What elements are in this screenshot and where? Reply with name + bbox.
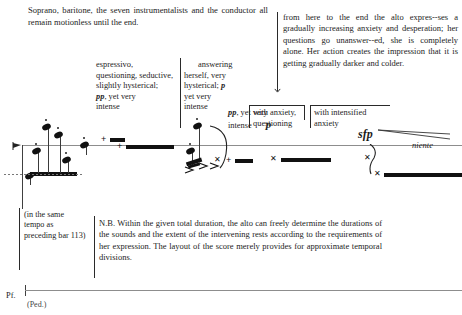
annotation-line: , yet very	[104, 92, 135, 101]
nb-note-divider	[94, 216, 95, 278]
annotation-espressivo: espressivo, questioning, seductive, slig…	[96, 60, 186, 113]
alto-note: from here to the end the alto expres--se…	[283, 12, 458, 69]
header-note: Soprano, baritone, the seven instrumenta…	[28, 5, 268, 28]
alto-note-divider	[277, 12, 278, 88]
plus-mark: +	[226, 156, 231, 165]
notehead	[53, 131, 64, 140]
note-stem	[48, 127, 49, 173]
instrument-label-pf: Pf.	[6, 291, 16, 300]
notehead	[185, 147, 196, 156]
accent-dot	[196, 118, 198, 120]
accent-dot	[35, 143, 37, 145]
annotation-4-rule-top	[310, 105, 390, 106]
x-notehead: ✕	[270, 155, 277, 163]
notehead	[192, 122, 203, 131]
accent-mark-icon	[184, 166, 196, 176]
note-stem	[199, 126, 200, 160]
annotation-line: espressivo,	[96, 60, 186, 71]
x-notehead: ✕	[364, 154, 371, 162]
pedal-marking: (Ped.)	[27, 300, 46, 309]
notehead	[31, 147, 42, 156]
accent-dot	[65, 152, 67, 154]
annotation-line: slightly hysterical;	[96, 81, 186, 92]
tempo-note-divider	[19, 208, 20, 270]
annotation-3-rule-top	[249, 105, 305, 106]
note-stem	[38, 151, 39, 173]
notehead	[24, 172, 35, 181]
score-page: Soprano, baritone, the seven instrumenta…	[0, 0, 462, 315]
annotation-line: intense	[96, 102, 186, 113]
tempo-note: (in the same tempo as preceding bar 113)	[24, 210, 86, 241]
barline	[22, 145, 23, 209]
pf-stave-line	[25, 290, 462, 291]
annotation-answering: answering herself, very hysterical; p ye…	[184, 60, 252, 113]
accent-dot	[83, 137, 85, 139]
dynamic-p: p	[221, 81, 225, 90]
accent-mark-icon	[209, 162, 221, 172]
annotation-line: questioning, seductive,	[96, 71, 186, 82]
nb-note: N.B. Within the given total duration, th…	[99, 218, 382, 264]
annotation-dynamic-line: hysterical; p	[184, 81, 252, 92]
notehead	[61, 156, 72, 165]
dotted-guide-line	[4, 174, 82, 175]
voice-marker-icon	[11, 140, 23, 152]
annotation-line: herself, very	[184, 71, 252, 82]
plus-mark: +	[101, 135, 106, 144]
accent-dot	[45, 119, 47, 121]
accent-dot	[189, 143, 191, 145]
sound-band	[126, 145, 174, 149]
annotation-dynamic-line: pp, yet very	[96, 92, 186, 103]
plus-mark: +	[117, 142, 122, 151]
sound-band	[384, 173, 462, 177]
x-notehead: ✕	[374, 170, 381, 178]
accent-dot	[57, 127, 59, 129]
notehead	[79, 141, 90, 150]
dynamic-niente: niente	[412, 140, 433, 150]
annotation-line: answering	[184, 60, 252, 71]
annotation-line: with anxiety,	[253, 108, 311, 119]
dynamic-sfp: sfp	[358, 127, 373, 142]
note-stem	[60, 135, 61, 173]
music-system: + + ✕ + ✕ sfp	[0, 118, 462, 200]
notehead	[41, 123, 52, 132]
annotation-line: yet very	[184, 92, 252, 103]
sound-band	[235, 159, 253, 163]
annotation-line: with intensified	[314, 108, 392, 119]
down-arrow-icon	[273, 84, 282, 93]
sound-band	[281, 158, 331, 162]
annotation-line: hysterical;	[184, 81, 219, 90]
